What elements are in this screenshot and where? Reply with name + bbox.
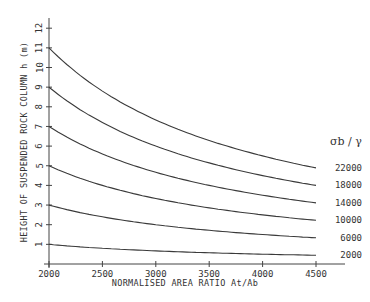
- y-tick-label: 4: [35, 183, 45, 188]
- series-curve-2000: [49, 244, 316, 255]
- y-tick-label: 2: [35, 222, 45, 227]
- series-curve-6000: [49, 205, 316, 238]
- y-tick-label: 10: [35, 62, 45, 73]
- y-tick-label: 1: [35, 242, 45, 247]
- series-curve-22000: [49, 48, 316, 168]
- x-tick-label: 2000: [38, 269, 60, 279]
- x-axis-title: NORMALISED AREA RATIO At/Ab: [112, 278, 258, 288]
- chart-svg: 123456789101112200025003000350040004500N…: [0, 0, 370, 302]
- y-tick-label: 9: [35, 84, 45, 89]
- y-tick-label: 5: [35, 163, 45, 168]
- x-tick-label: 2500: [92, 269, 114, 279]
- series-curve-18000: [49, 87, 316, 185]
- legend-label-10000: 10000: [335, 215, 362, 225]
- x-tick-label: 4500: [305, 269, 327, 279]
- y-tick-label: 8: [35, 104, 45, 109]
- chart: 123456789101112200025003000350040004500N…: [0, 0, 370, 302]
- y-tick-label: 11: [35, 42, 45, 53]
- legend-title: σb / γ: [330, 135, 362, 148]
- legend-label-2000: 2000: [340, 250, 362, 260]
- y-tick-label: 7: [35, 124, 45, 129]
- legend-label-14000: 14000: [335, 198, 362, 208]
- y-tick-label: 6: [35, 143, 45, 148]
- y-tick-label: 3: [35, 202, 45, 207]
- legend-label-22000: 22000: [335, 163, 362, 173]
- series-curve-14000: [49, 127, 316, 203]
- series-curve-10000: [49, 166, 316, 221]
- y-axis-title: HEIGHT OF SUSPENDED ROCK COLUMN h (m): [19, 42, 29, 242]
- legend-label-18000: 18000: [335, 180, 362, 190]
- y-tick-label: 12: [35, 23, 45, 34]
- legend-label-6000: 6000: [340, 233, 362, 243]
